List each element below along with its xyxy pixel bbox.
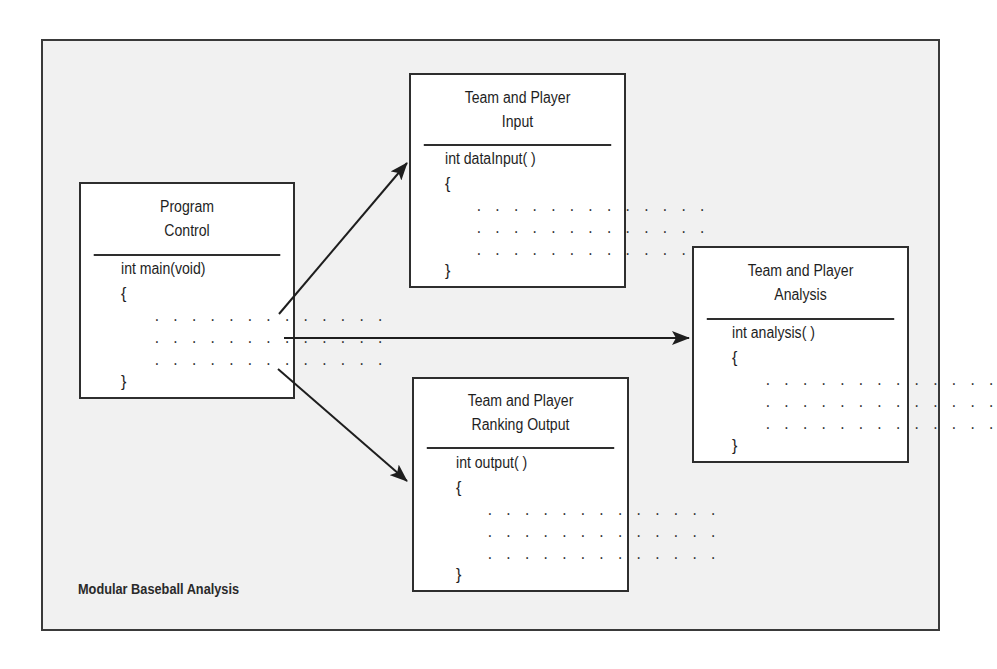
arrow-to-input [279,163,407,314]
arrow-to-output [278,369,407,481]
diagram-caption: Modular Baseball Analysis [78,580,239,597]
